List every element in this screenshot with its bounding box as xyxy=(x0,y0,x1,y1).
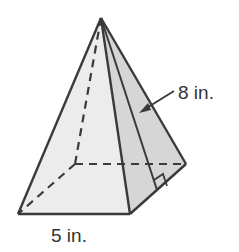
slant-height-label: 8 in. xyxy=(178,82,214,103)
pyramid-diagram: 8 in. 5 in. xyxy=(0,0,239,252)
base-edge-label: 5 in. xyxy=(51,225,87,246)
